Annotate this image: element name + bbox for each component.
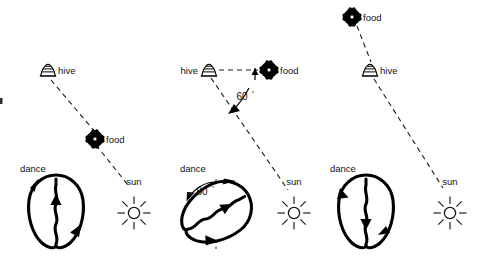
food-label: food: [106, 134, 125, 145]
hive-to-sun-line: [211, 78, 288, 190]
food-label: food: [280, 65, 299, 76]
food-baseline-tick-arrow: [252, 68, 259, 75]
sun-icon: [118, 197, 151, 230]
sun-label: sun: [286, 176, 301, 187]
panel-food-away-from-sun: food hive sun dance: [330, 7, 467, 248]
food-to-hive-line: [357, 26, 371, 62]
hive-icon: [201, 64, 217, 76]
food-label: food: [363, 12, 382, 23]
figure-eight-dance-icon: [337, 175, 393, 248]
figure-eight-dance-icon: [29, 175, 84, 248]
hive-label: hive: [58, 65, 75, 76]
flower-icon: [342, 7, 362, 27]
panel-food-60-degrees: 60 ° hive food sun: [171, 60, 310, 255]
flower-icon: [259, 60, 279, 80]
hive-to-sun-line: [374, 79, 443, 188]
sun-icon: [434, 197, 467, 230]
panel-food-toward-sun: hive food sun dance: [20, 64, 151, 247]
hive-label: hive: [181, 65, 198, 76]
bee-dance-figure: hive food sun dance: [0, 0, 493, 266]
dance-angle-label: 60: [196, 186, 208, 197]
hive-icon: [40, 64, 56, 76]
scan-edge-artifact: [0, 98, 3, 104]
sun-icon: [278, 197, 311, 230]
hive-icon: [362, 64, 378, 76]
hive-to-food-line: [51, 80, 96, 133]
hive-label: hive: [380, 65, 397, 76]
angle-arrow: [228, 104, 240, 114]
flower-icon: [85, 129, 105, 149]
figure-canvas: hive food sun dance: [0, 0, 493, 266]
food-to-sun-line: [96, 145, 128, 185]
sun-label: sun: [126, 176, 141, 187]
dance-label: dance: [20, 163, 46, 174]
sun-label: sun: [442, 176, 457, 187]
field-angle-degree-symbol: °: [252, 90, 255, 96]
figure-eight-dance-icon: 60 °: [171, 171, 261, 255]
field-angle-label: 60: [236, 91, 248, 102]
dance-label: dance: [180, 163, 206, 174]
dance-label: dance: [330, 163, 356, 174]
